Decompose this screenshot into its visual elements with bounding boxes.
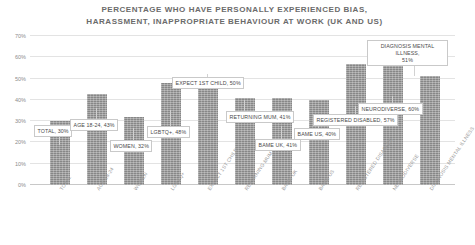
data-label-bame-uk: BAME UK, 41% (255, 139, 301, 151)
y-tick-30: 30% (15, 118, 26, 124)
data-label-diagnosis-line-2: 51% (371, 57, 445, 64)
data-label-diagnosis-mental-illness: DIAGNOSIS MENTAL ILLNESS, 51% (367, 40, 448, 66)
data-label-lgbtq: LGBTQ+, 48% (147, 126, 190, 138)
y-tick-50: 50% (15, 76, 26, 82)
y-tick-0: 0% (18, 182, 26, 188)
gridline-70 (30, 35, 455, 36)
data-label-diagnosis-line-1: DIAGNOSIS MENTAL ILLNESS, (371, 43, 445, 57)
bar-expect-1st-child[interactable] (198, 79, 218, 185)
y-tick-60: 60% (15, 54, 26, 60)
data-label-age-18-24: AGE 18-24, 43% (70, 119, 118, 131)
data-label-neurodiverse: NEURODIVERSE, 60% (358, 103, 423, 115)
bar-diagnosis-mental-illness[interactable] (420, 76, 440, 185)
y-tick-20: 20% (15, 139, 26, 145)
chart-title: PERCENTAGE WHO HAVE PERSONALLY EXPERIENC… (0, 4, 469, 28)
data-label-expect-1st-child: EXPECT 1ST CHILD, 50% (172, 77, 244, 89)
chart-title-line-1: PERCENTAGE WHO HAVE PERSONALLY EXPERIENC… (0, 4, 469, 16)
y-tick-70: 70% (15, 33, 26, 39)
data-label-bame-us: BAME US, 40% (294, 128, 340, 140)
data-label-registered-disabled: REGISTERED DISABLED, 57% (313, 114, 398, 126)
leader-bame-uk (281, 126, 282, 140)
data-label-returning-mum: RETURNING MUM, 41% (226, 111, 294, 123)
y-tick-10: 10% (15, 161, 26, 167)
chart-title-line-2: HARASSMENT, INAPPROPRIATE BEHAVIOUR AT W… (0, 16, 469, 28)
data-label-total: TOTAL, 30% (34, 125, 72, 137)
data-label-women: WOMEN, 32% (110, 140, 152, 152)
y-tick-40: 40% (15, 97, 26, 103)
bar-age-18-24[interactable] (87, 94, 107, 186)
